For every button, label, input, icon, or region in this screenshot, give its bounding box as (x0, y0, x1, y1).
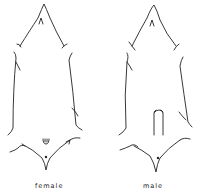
female-label: female (35, 182, 63, 190)
male-label: male (143, 182, 163, 190)
female-outline (8, 4, 82, 170)
diagram-canvas (0, 0, 200, 193)
male-outline (119, 5, 192, 172)
